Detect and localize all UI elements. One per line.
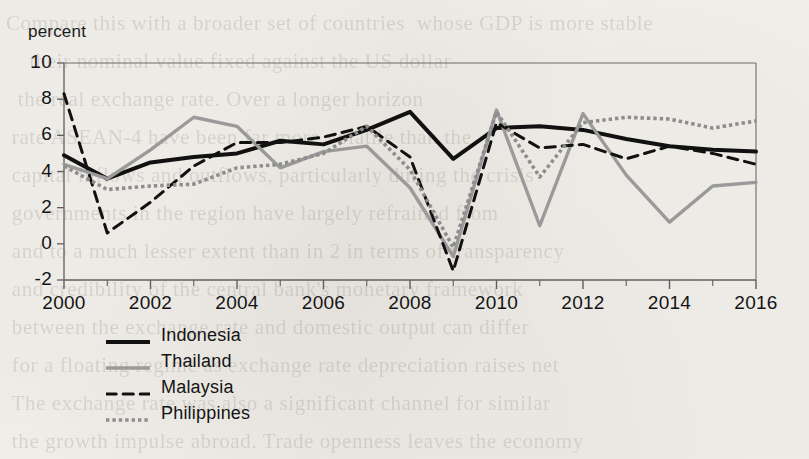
chart-legend: IndonesiaThailandMalaysiaPhilippines: [106, 322, 250, 426]
x-tick-label: 2016: [720, 292, 792, 314]
x-tick-label: 2002: [115, 292, 187, 314]
x-tick-label: 2008: [374, 292, 446, 314]
legend-label-indonesia: Indonesia: [161, 325, 241, 346]
y-tick-label: 2: [8, 196, 52, 218]
legend-swatch-malaysia: [106, 380, 150, 394]
x-tick-label: 2004: [201, 292, 273, 314]
y-tick-label: 10: [8, 51, 52, 73]
y-tick-label: 0: [8, 232, 52, 254]
x-tick-label: 2000: [28, 292, 100, 314]
legend-label-thailand: Thailand: [161, 351, 232, 372]
legend-item-malaysia: Malaysia: [106, 374, 250, 400]
y-tick-label: 8: [8, 87, 52, 109]
series-line-malaysia: [64, 94, 756, 271]
legend-label-malaysia: Malaysia: [161, 377, 234, 398]
series-line-philippines: [64, 112, 756, 248]
legend-swatch-philippines: [106, 406, 150, 420]
x-tick-label: 2010: [461, 292, 533, 314]
legend-item-thailand: Thailand: [106, 348, 250, 374]
legend-label-philippines: Philippines: [161, 403, 250, 424]
legend-swatch-thailand: [106, 354, 150, 368]
y-tick-label: 4: [8, 160, 52, 182]
legend-item-indonesia: Indonesia: [106, 322, 250, 348]
y-tick-label: 6: [8, 123, 52, 145]
series-line-thailand: [64, 110, 756, 256]
y-tick-label: -2: [8, 268, 52, 290]
series-line-indonesia: [64, 112, 756, 179]
legend-item-philippines: Philippines: [106, 400, 250, 426]
x-tick-label: 2006: [288, 292, 360, 314]
x-tick-label: 2014: [634, 292, 706, 314]
legend-swatch-indonesia: [106, 328, 150, 342]
x-tick-label: 2012: [547, 292, 619, 314]
